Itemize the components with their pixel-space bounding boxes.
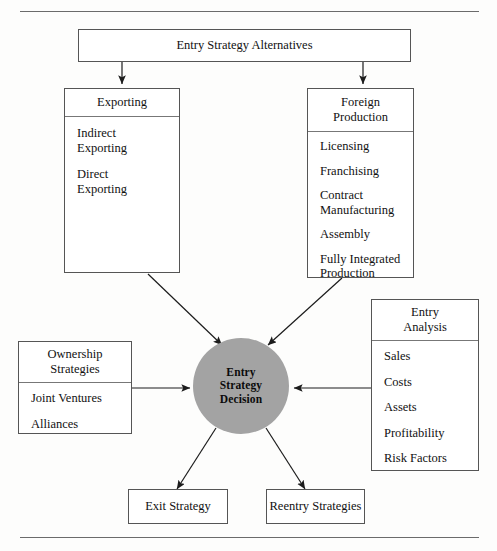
node-exit-strategy-label: Exit Strategy [145,499,211,514]
arrow-decision-to-exit-strategy [177,428,216,489]
node-foreign-production[interactable]: Foreign Production Licensing Franchising… [307,88,414,278]
node-entry-analysis[interactable]: Entry Analysis Sales Costs Assets Profit… [371,299,479,471]
node-ownership-strategies-header: Ownership Strategies [19,342,131,383]
node-foreign-production-items: Licensing Franchising Contract Manufactu… [308,132,413,287]
list-item: Alliances [31,417,131,432]
list-item: Profitability [384,426,478,441]
diagram-canvas: Entry Strategy Alternatives Exporting In… [0,0,497,551]
list-item: Risk Factors [384,451,478,466]
list-item: Costs [384,375,478,390]
node-ownership-strategies-items: Joint Ventures Alliances [19,383,131,437]
top-divider-rule [20,11,479,12]
node-exporting[interactable]: Exporting Indirect Exporting Direct Expo… [64,88,180,273]
node-entry-strategy-decision-label: Entry Strategy Decision [220,366,262,407]
node-entry-strategy-alternatives[interactable]: Entry Strategy Alternatives [78,29,411,62]
node-ownership-strategies[interactable]: Ownership Strategies Joint Ventures Alli… [18,341,132,434]
list-item: Direct Exporting [77,167,179,196]
node-entry-strategy-alternatives-label: Entry Strategy Alternatives [176,38,312,53]
list-item: Licensing [320,139,413,154]
list-item: Fully Integrated Production [320,252,413,281]
list-item: Joint Ventures [31,391,131,406]
node-exit-strategy[interactable]: Exit Strategy [128,489,228,524]
list-item: Assembly [320,227,413,242]
node-foreign-production-header: Foreign Production [308,89,413,132]
node-entry-analysis-header: Entry Analysis [372,300,478,341]
node-exporting-items: Indirect Exporting Direct Exporting [65,117,179,202]
list-item: Assets [384,400,478,415]
arrow-decision-to-reentry-strategies [266,428,305,489]
list-item: Indirect Exporting [77,126,179,155]
node-reentry-strategies[interactable]: Reentry Strategies [266,489,365,524]
node-entry-analysis-items: Sales Costs Assets Profitability Risk Fa… [372,341,478,472]
list-item: Franchising [320,164,413,179]
bottom-divider-rule [20,537,479,538]
list-item: Sales [384,349,478,364]
node-reentry-strategies-label: Reentry Strategies [270,499,362,514]
list-item: Contract Manufacturing [320,188,413,217]
node-exporting-header: Exporting [65,89,179,117]
arrow-foreign-production-to-decision [268,278,342,345]
arrow-exporting-to-decision [148,274,222,345]
node-entry-strategy-decision[interactable]: Entry Strategy Decision [193,338,289,434]
